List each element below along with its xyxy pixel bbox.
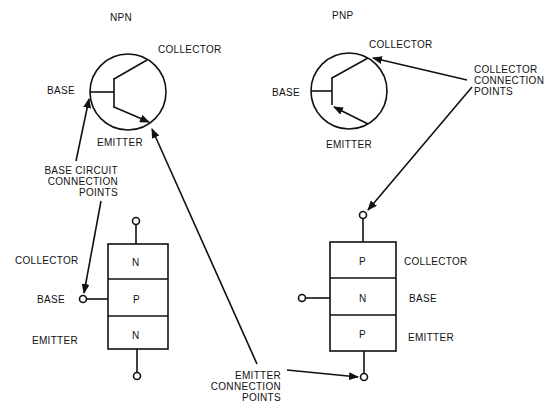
npn-layer-block (80, 34, 169, 380)
npn-transistor-symbol (90, 54, 166, 130)
pnp-layer-top: P (359, 256, 366, 267)
npn-layer-middle: P (133, 294, 140, 305)
pnp-block-emitter-label: EMITTER (408, 332, 454, 343)
pnp-block-base-label: BASE (409, 293, 437, 304)
pnp-block-collector-label: COLLECTOR (404, 256, 468, 267)
pnp-transistor-symbol (311, 53, 387, 129)
pnp-layer-bottom: P (359, 329, 366, 340)
npn-block-collector-label: COLLECTOR (15, 255, 79, 266)
pnp-symbol-collector-label: COLLECTOR (369, 39, 433, 50)
npn-block-base-label: BASE (37, 294, 65, 305)
pnp-layer-block (299, 212, 397, 381)
collector-callout-label: COLLECTOR CONNECTION POINTS (474, 64, 544, 97)
pnp-title: PNP (332, 10, 353, 21)
npn-title: NPN (110, 12, 132, 23)
npn-symbol-base-label: BASE (47, 85, 75, 96)
diagram-canvas (0, 0, 558, 412)
pnp-symbol-emitter-label: EMITTER (326, 139, 372, 150)
base-callout-label: BASE CIRCUIT CONNECTION POINTS (40, 165, 118, 198)
npn-layer-top: N (132, 257, 140, 268)
npn-layer-bottom: N (132, 330, 140, 341)
npn-block-emitter-label: EMITTER (32, 335, 78, 346)
npn-symbol-collector-label: COLLECTOR (158, 44, 222, 55)
pnp-symbol-base-label: BASE (272, 87, 300, 98)
emitter-callout-label: EMITTER CONNECTION POINTS (200, 370, 281, 403)
npn-symbol-emitter-label: EMITTER (97, 137, 143, 148)
pnp-layer-middle: N (359, 293, 367, 304)
